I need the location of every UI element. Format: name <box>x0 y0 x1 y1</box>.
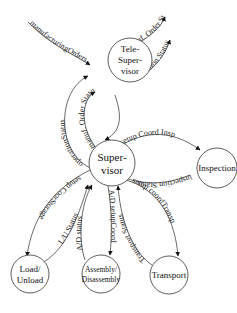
svg-text:Super-: Super- <box>118 55 142 65</box>
node-load-unload: Load/ Unload <box>11 255 49 293</box>
node-assembly-disassembly: Assembly/ Disassembly <box>82 255 121 293</box>
edge-transport-status: Transport Status <box>115 186 152 265</box>
svg-text:Super-: Super- <box>97 151 126 163</box>
svg-text:visor: visor <box>101 164 123 176</box>
node-supervisor: Super- visor <box>89 140 135 186</box>
diagram-canvas: manufacturingOrders manuf. Order Status … <box>0 0 237 313</box>
node-tele-supervisor: Tele- Super- visor <box>108 38 152 82</box>
svg-text:Assembly/: Assembly/ <box>85 265 118 274</box>
svg-text:Transport Status: Transport Status <box>115 213 147 265</box>
svg-text:Disassembly: Disassembly <box>82 275 121 284</box>
node-inspection: Inspection <box>197 148 237 188</box>
svg-text:setup Coord Insp: setup Coord Insp <box>118 127 176 146</box>
svg-text:A/D status: A/D status <box>74 216 84 252</box>
edge-manufacturing-orders: manufacturingOrders <box>28 18 90 65</box>
svg-text:manufacturingOrders: manufacturingOrders <box>28 18 89 63</box>
node-transport: Transport <box>150 256 188 294</box>
svg-text:Load/: Load/ <box>20 264 41 274</box>
svg-text:manuf. Order Status: manuf. Order Status <box>0 0 97 151</box>
svg-text:Inspection: Inspection <box>198 163 236 173</box>
edge-ad-setupcoord: A/D setupCoord <box>107 186 119 255</box>
svg-text:visor: visor <box>121 66 139 76</box>
svg-text:Tele-: Tele- <box>121 44 139 54</box>
edge-manuf-order-status-up: manuf. Order Status <box>0 0 98 151</box>
svg-text:Unload: Unload <box>17 275 44 285</box>
svg-text:Transport: Transport <box>152 270 187 280</box>
edge-tele-to-supervisor <box>105 95 119 140</box>
edge-ad-status: A/D status <box>74 185 92 260</box>
